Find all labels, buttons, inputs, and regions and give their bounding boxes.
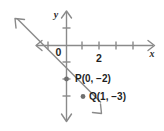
line-lower-right-arrowhead — [93, 104, 102, 114]
origin-label: 0 — [56, 46, 62, 58]
coordinate-plane-figure: y x 0 2 P(0, −2) Q(1, −3) — [0, 0, 164, 131]
y-axis-group — [62, 11, 72, 122]
point-label-q: Q(1, −3) — [89, 91, 126, 102]
graph-canvas: y x 0 2 P(0, −2) Q(1, −3) — [0, 0, 164, 131]
x-axis-group — [36, 41, 155, 51]
x-tick-label-2: 2 — [96, 52, 102, 64]
point-marker-q — [81, 94, 86, 99]
y-axis-label: y — [53, 9, 59, 20]
x-axis-label: x — [149, 48, 155, 59]
line-upper-left-arrowhead — [15, 19, 25, 29]
point-label-p: P(0, −2) — [75, 73, 111, 84]
point-marker-p — [64, 77, 69, 82]
